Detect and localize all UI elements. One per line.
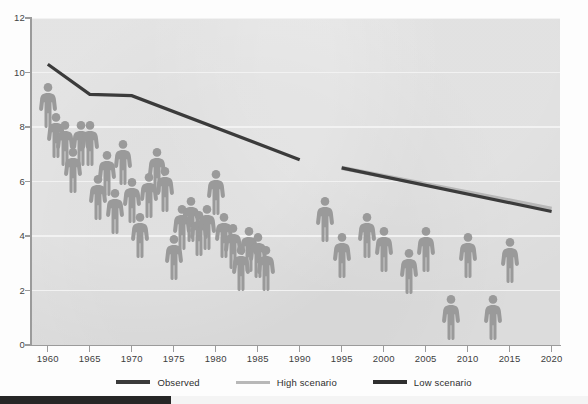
legend-item-observed[interactable]: Observed — [116, 377, 199, 388]
x-axis-tick-label: 1995 — [320, 353, 364, 364]
y-axis-tick-label: 4 — [0, 230, 25, 241]
y-axis-tick-label: 12 — [0, 12, 25, 23]
x-axis-tick-mark — [215, 346, 216, 352]
series-line-low-scenario — [342, 168, 552, 212]
y-axis-tick-label: 2 — [0, 285, 25, 296]
x-axis-tick-label: 1960 — [26, 353, 70, 364]
x-axis-tick-mark — [173, 346, 174, 352]
y-axis-line — [30, 17, 32, 346]
pictogram-person-marker — [129, 212, 151, 258]
legend-item-low-scenario[interactable]: Low scenario — [373, 377, 472, 388]
y-axis-tick-mark — [25, 17, 30, 18]
legend-item-high-scenario[interactable]: High scenario — [236, 377, 337, 388]
legend-label: Low scenario — [414, 377, 472, 388]
x-axis-tick-mark — [299, 346, 300, 352]
x-axis-tick-label: 2020 — [530, 353, 574, 364]
bottom-strip — [0, 396, 588, 404]
x-axis-tick-label: 2015 — [488, 353, 532, 364]
x-axis-tick-label: 1975 — [152, 353, 196, 364]
x-axis-tick-mark — [341, 346, 342, 352]
progress-indicator[interactable] — [0, 396, 171, 404]
pictogram-person-marker — [205, 169, 227, 215]
gridline — [31, 290, 560, 292]
pictogram-person-marker — [415, 226, 437, 272]
y-axis-tick-label: 0 — [0, 339, 25, 350]
x-axis-tick-mark — [467, 346, 468, 352]
y-axis-tick-label: 8 — [0, 121, 25, 132]
series-line-high-scenario — [342, 168, 552, 209]
y-axis-tick-mark — [25, 181, 30, 182]
gridline — [31, 72, 560, 74]
legend-color-swatch — [116, 380, 150, 384]
x-axis-tick-mark — [383, 346, 384, 352]
x-axis-tick-label: 2000 — [362, 353, 406, 364]
x-axis-line — [30, 345, 561, 346]
y-axis-tick-mark — [25, 344, 30, 345]
legend-label: High scenario — [277, 377, 337, 388]
x-axis-tick-mark — [47, 346, 48, 352]
x-axis-tick-label: 1970 — [110, 353, 154, 364]
x-axis-tick-mark — [509, 346, 510, 352]
pictogram-person-marker — [457, 232, 479, 278]
legend-color-swatch — [236, 381, 270, 384]
gridline — [31, 126, 560, 128]
legend-color-swatch — [373, 380, 407, 384]
x-axis-tick-label: 2005 — [404, 353, 448, 364]
pictogram-person-marker — [331, 232, 353, 278]
x-axis-tick-mark — [257, 346, 258, 352]
x-axis-tick-mark — [425, 346, 426, 352]
pictogram-person-marker — [499, 237, 521, 283]
pictogram-person-marker — [373, 226, 395, 272]
y-axis-tick-mark — [25, 72, 30, 73]
gridline — [31, 18, 560, 19]
y-axis-tick-mark — [25, 126, 30, 127]
legend-label: Observed — [157, 377, 199, 388]
x-axis-tick-mark — [131, 346, 132, 352]
y-axis-tick-mark — [25, 290, 30, 291]
y-axis-tick-label: 6 — [0, 176, 25, 187]
chart-container: 121086420 196019651970197519801985199019… — [0, 0, 588, 404]
y-axis-tick-label: 10 — [0, 67, 25, 78]
chart-legend: ObservedHigh scenarioLow scenario — [0, 374, 588, 390]
pictogram-person-marker — [482, 294, 504, 340]
pictogram-person-marker — [255, 245, 277, 291]
y-axis-tick-mark — [25, 235, 30, 236]
x-axis-tick-label: 1990 — [278, 353, 322, 364]
x-axis-tick-label: 2010 — [446, 353, 490, 364]
gridline — [31, 235, 560, 237]
plot-area — [31, 18, 560, 345]
pictogram-person-marker — [440, 294, 462, 340]
x-axis-tick-label: 1980 — [194, 353, 238, 364]
x-axis-tick-label: 1985 — [236, 353, 280, 364]
x-axis-tick-mark — [89, 346, 90, 352]
x-axis-tick-mark — [551, 346, 552, 352]
x-axis-tick-label: 1965 — [68, 353, 112, 364]
